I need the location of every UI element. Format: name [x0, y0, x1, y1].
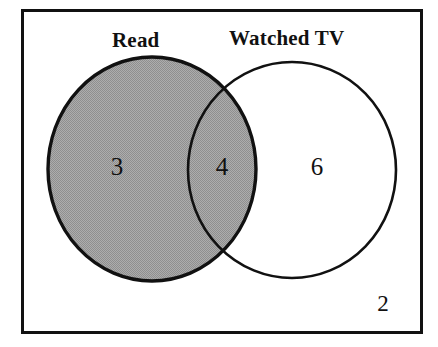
- watched-tv-set-label: Watched TV: [229, 26, 344, 51]
- count-read-and-watched-tv: 4: [207, 153, 237, 181]
- count-neither: 2: [370, 291, 396, 317]
- count-read-only: 3: [102, 153, 132, 181]
- venn-diagram-figure: Read Watched TV 3 4 6 2: [0, 0, 438, 347]
- count-watched-tv-only: 6: [302, 153, 332, 181]
- read-set-label: Read: [112, 28, 159, 53]
